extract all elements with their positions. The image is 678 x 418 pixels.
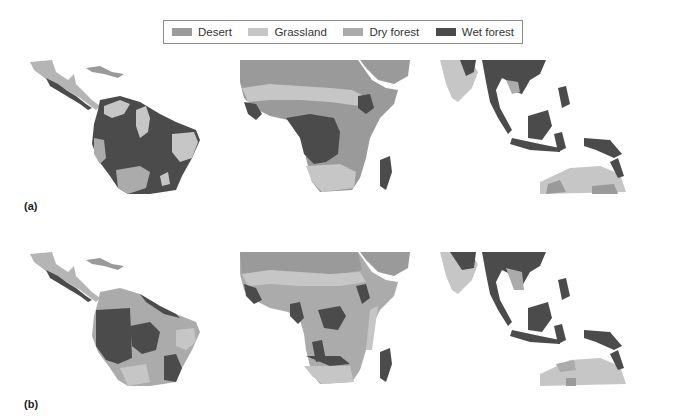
legend-label-wet-forest: Wet forest <box>462 26 514 38</box>
desert-swatch <box>172 28 192 36</box>
legend: Desert Grassland Dry forest Wet forest <box>163 20 523 44</box>
legend-item-wet-forest: Wet forest <box>436 26 514 38</box>
legend-item-grassland: Grassland <box>248 26 326 38</box>
map-americas-a <box>30 60 200 194</box>
legend-item-dry-forest: Dry forest <box>343 26 419 38</box>
map-africa-b <box>240 252 410 384</box>
panel-label-a: (a) <box>24 200 37 212</box>
panel-a-svg <box>0 58 678 208</box>
panel-b-svg <box>0 250 678 400</box>
map-americas-b <box>30 252 200 386</box>
dry-forest-swatch <box>343 28 363 36</box>
legend-label-desert: Desert <box>198 26 232 38</box>
legend-label-grassland: Grassland <box>274 26 326 38</box>
panel-b-maps <box>0 250 678 400</box>
panel-a-maps <box>0 58 678 208</box>
legend-item-desert: Desert <box>172 26 232 38</box>
grassland-swatch <box>248 28 268 36</box>
map-asia-australia-b <box>440 252 626 386</box>
map-asia-australia-a <box>440 60 626 194</box>
legend-label-dry-forest: Dry forest <box>369 26 419 38</box>
map-africa-a <box>240 60 410 192</box>
wet-forest-swatch <box>436 28 456 36</box>
panel-label-b: (b) <box>24 398 38 410</box>
